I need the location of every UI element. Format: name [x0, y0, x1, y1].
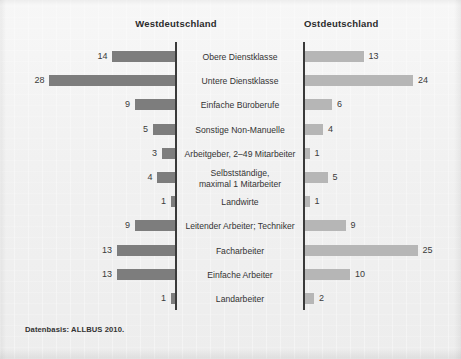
bar-group-east: 24 [305, 68, 461, 94]
bar-west [117, 269, 176, 280]
bar-value-east: 5 [333, 171, 338, 183]
bar-group-west: 1 [0, 286, 175, 312]
chart-row: 45Selbstständige, maximal 1 Mitarbeiter [0, 165, 461, 191]
panel-heading-west: Westdeutschland [135, 18, 216, 29]
bar-value-west: 28 [34, 74, 44, 86]
bar-west [135, 99, 176, 110]
chart-row: 96Einfache Büroberufe [0, 92, 461, 118]
bar-value-east: 1 [315, 195, 320, 207]
bar-value-west: 1 [161, 195, 166, 207]
bar-group-east: 13 [305, 44, 461, 70]
bar-east [305, 51, 364, 62]
category-label: Arbeitgeber, 2–49 Mitarbeiter [177, 149, 303, 160]
category-label: Obere Dienstklasse [177, 52, 303, 63]
bar-group-east: 4 [305, 117, 461, 143]
bar-group-west: 9 [0, 92, 175, 118]
bar-group-west: 1 [0, 189, 175, 215]
bar-west [117, 245, 176, 256]
bar-west [135, 220, 176, 231]
bar-value-east: 24 [418, 74, 428, 86]
category-label: Einfache Büroberufe [177, 100, 303, 111]
bar-west [157, 172, 175, 183]
bar-value-west: 1 [161, 292, 166, 304]
bar-value-east: 13 [369, 50, 379, 62]
bar-group-west: 5 [0, 117, 175, 143]
bar-east [305, 148, 310, 159]
bar-west [49, 75, 175, 86]
bar-value-east: 10 [355, 268, 365, 280]
bar-east [305, 124, 323, 135]
bar-west [162, 148, 176, 159]
bar-value-west: 14 [97, 50, 107, 62]
panel-heading-east: Ostdeutschland [304, 18, 379, 29]
bar-east [305, 99, 332, 110]
chart-row: 2824Untere Dienstklasse [0, 68, 461, 94]
bar-value-west: 13 [102, 268, 112, 280]
bar-group-east: 9 [305, 213, 461, 239]
bar-west [153, 124, 176, 135]
category-label: Landarbeiter [177, 294, 303, 305]
bar-east [305, 196, 310, 207]
bar-group-west: 13 [0, 238, 175, 264]
bar-group-east: 6 [305, 92, 461, 118]
bar-group-east: 1 [305, 141, 461, 167]
chart-plot-area: Westdeutschland Ostdeutschland 1413Obere… [0, 0, 461, 359]
bar-group-west: 28 [0, 68, 175, 94]
bar-group-east: 5 [305, 165, 461, 191]
bar-value-east: 9 [351, 219, 356, 231]
bar-value-west: 3 [152, 147, 157, 159]
bar-west [112, 51, 175, 62]
category-label: Einfache Arbeiter [177, 270, 303, 281]
category-label: Sonstige Non-Manuelle [177, 124, 303, 135]
bar-value-east: 25 [423, 244, 433, 256]
bar-value-west: 13 [102, 244, 112, 256]
category-label: Untere Dienstklasse [177, 76, 303, 87]
bar-value-west: 4 [147, 171, 152, 183]
bar-group-west: 14 [0, 44, 175, 70]
bar-group-east: 2 [305, 286, 461, 312]
chart-row: 31Arbeitgeber, 2–49 Mitarbeiter [0, 141, 461, 167]
bar-east [305, 293, 314, 304]
source-footnote: Datenbasis: ALLBUS 2010. [25, 325, 124, 334]
bar-value-west: 9 [125, 219, 130, 231]
bar-value-east: 6 [337, 98, 342, 110]
category-label: Leitender Arbeiter; Techniker [177, 221, 303, 232]
bar-group-east: 10 [305, 262, 461, 288]
category-label: Facharbeiter [177, 245, 303, 256]
bar-east [305, 75, 413, 86]
bar-west [171, 196, 176, 207]
bar-value-east: 2 [319, 292, 324, 304]
bar-group-west: 4 [0, 165, 175, 191]
bar-value-west: 5 [143, 123, 148, 135]
bar-value-east: 4 [328, 123, 333, 135]
bar-value-west: 9 [125, 98, 130, 110]
chart-row: 54Sonstige Non-Manuelle [0, 117, 461, 143]
bar-group-west: 13 [0, 262, 175, 288]
bar-east [305, 220, 346, 231]
category-label: Selbstständige, maximal 1 Mitarbeiter [177, 168, 303, 189]
bar-group-east: 25 [305, 238, 461, 264]
bar-west [171, 293, 176, 304]
chart-row: 11Landwirte [0, 189, 461, 215]
chart-row: 1310Einfache Arbeiter [0, 262, 461, 288]
category-label: Landwirte [177, 197, 303, 208]
chart-row: 1325Facharbeiter [0, 238, 461, 264]
chart-row: 1413Obere Dienstklasse [0, 44, 461, 70]
figure-panel: Westdeutschland Ostdeutschland 1413Obere… [0, 0, 461, 359]
bar-east [305, 172, 328, 183]
chart-row: 12Landarbeiter [0, 286, 461, 312]
bar-east [305, 269, 350, 280]
bar-group-west: 3 [0, 141, 175, 167]
bar-east [305, 245, 418, 256]
bar-value-east: 1 [315, 147, 320, 159]
chart-row: 99Leitender Arbeiter; Techniker [0, 213, 461, 239]
bar-group-west: 9 [0, 213, 175, 239]
bar-group-east: 1 [305, 189, 461, 215]
